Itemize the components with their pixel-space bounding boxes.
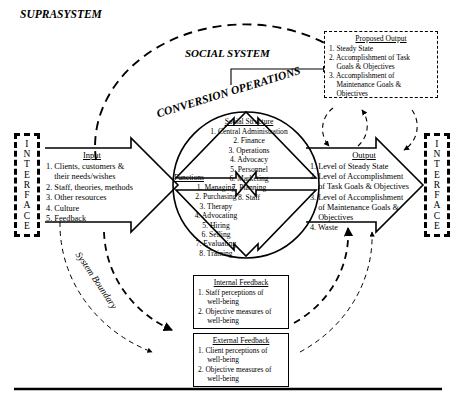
interface-left: INTERFACE [14, 133, 40, 237]
input-list: 1. Clients, customers & their needs/wish… [46, 162, 138, 224]
social-structure-title: Social Structure [193, 117, 305, 126]
interface-right: INTERFACE [424, 133, 450, 237]
output-title: Output [310, 150, 418, 160]
system-boundary-arc-inner [104, 232, 172, 330]
internal-feedback-box: Internal Feedback 1. Staff perceptions o… [193, 275, 289, 329]
input-title: Input [46, 150, 138, 160]
external-feedback-box: External Feedback 1. Client perceptions … [193, 333, 289, 387]
social-system-label: SOCIAL SYSTEM [185, 47, 270, 59]
proposed-output-title: Proposed Output [329, 34, 433, 43]
external-feedback-arc [300, 232, 372, 352]
page-title: SUPRASYSTEM [20, 8, 102, 20]
interface-left-letters: I [25, 139, 28, 149]
proposed-output-list: 1. Steady State 2. Accomplishment of Tas… [329, 44, 433, 98]
internal-feedback-title: Internal Feedback [198, 278, 284, 287]
functions-title: Functions [170, 173, 262, 182]
output-to-proposed-arc-right [404, 110, 417, 150]
proposed-to-output-arc-left [323, 108, 333, 146]
functions-list: 1. Managing 2. Purchasing 3. Therapy 4. … [170, 183, 262, 258]
output-to-proposed-arc-mid [358, 110, 367, 146]
interface-right-letters: I [435, 139, 438, 149]
output-list: 1. Level of Steady State 2. Level of Acc… [310, 162, 418, 233]
external-feedback-title: External Feedback [198, 336, 284, 345]
proposed-output-box: Proposed Output 1. Steady State 2. Accom… [324, 31, 438, 98]
diagram-canvas: SUPRASYSTEM SOCIAL SYSTEM CONVERSION OPE… [0, 0, 456, 406]
internal-feedback-arc [294, 228, 348, 323]
internal-feedback-list: 1. Staff perceptions of well-being 2. Ob… [198, 288, 284, 326]
external-feedback-list: 1. Client perceptions of well-being 2. O… [198, 346, 284, 384]
